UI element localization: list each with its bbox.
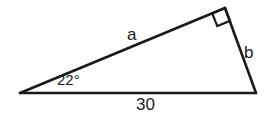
triangle-diagram: a b 30 22° <box>0 0 268 117</box>
side-label-b: b <box>244 44 253 61</box>
side-label-base-length: 30 <box>136 96 155 113</box>
angle-label-left: 22° <box>57 72 80 87</box>
triangle-drawing <box>0 0 268 117</box>
side-label-a: a <box>127 26 136 43</box>
triangle-side-upper <box>20 8 225 93</box>
